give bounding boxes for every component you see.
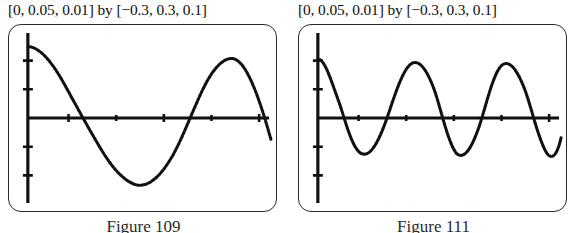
plotted-curve-109: [30, 47, 271, 185]
graph-canvas-109: [9, 25, 276, 211]
figure-caption-109: Figure 109: [0, 217, 287, 233]
figure-caption-111: Figure 111: [290, 217, 577, 233]
figure-pair: [0, 0.05, 0.01] by [−0.3, 0.3, 0.1]: [0, 0, 577, 233]
window-settings-label-109: [0, 0.05, 0.01] by [−0.3, 0.3, 0.1]: [8, 0, 283, 20]
graph-canvas-111: [299, 25, 566, 211]
figure-panel-109: [0, 0.05, 0.01] by [−0.3, 0.3, 0.1]: [0, 0, 287, 233]
calculator-screen-111: [298, 24, 567, 212]
calculator-screen-109: [8, 24, 277, 212]
axes-111: [313, 33, 559, 203]
figure-panel-111: [0, 0.05, 0.01] by [−0.3, 0.3, 0.1]: [290, 0, 577, 233]
window-settings-label-111: [0, 0.05, 0.01] by [−0.3, 0.3, 0.1]: [298, 0, 573, 20]
plotted-curve-111: [320, 60, 561, 157]
